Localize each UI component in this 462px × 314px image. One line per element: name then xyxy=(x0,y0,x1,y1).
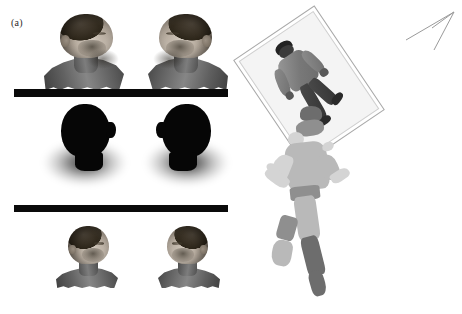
bust-left xyxy=(44,14,124,90)
panel-a-label: (a) xyxy=(11,17,23,28)
recon-shoe-right xyxy=(307,268,329,297)
bust-shading xyxy=(87,49,119,69)
figure-canvas: (a) xyxy=(0,0,462,314)
face-ear xyxy=(200,245,207,254)
separator-bar-1 xyxy=(14,89,228,97)
panel-a: (a) xyxy=(0,0,236,314)
recon-leg-left xyxy=(293,195,321,242)
face-left xyxy=(56,226,118,288)
recon-shoe-left xyxy=(270,238,294,267)
bust-ear xyxy=(61,35,70,46)
bust-right xyxy=(148,14,228,90)
silhouette-shape xyxy=(162,104,211,157)
separator-bar-2 xyxy=(14,205,228,212)
face-brow xyxy=(172,242,183,244)
face-right xyxy=(158,226,220,288)
bust-ear xyxy=(202,35,211,46)
view-direction-arrow xyxy=(404,6,460,52)
recon-leg-right xyxy=(275,214,299,242)
face-brow xyxy=(94,242,105,244)
arrow-head-line xyxy=(432,12,454,28)
face-beard xyxy=(172,248,194,262)
silhouette-right xyxy=(150,104,224,178)
silhouette-shape xyxy=(61,104,110,157)
panel-b: (b) xyxy=(236,0,462,314)
silhouette-left xyxy=(48,104,122,178)
bust-shading xyxy=(153,49,185,69)
face-ear xyxy=(69,245,76,254)
reconstruction-point-cloud xyxy=(258,118,378,308)
face-beard xyxy=(82,248,104,262)
